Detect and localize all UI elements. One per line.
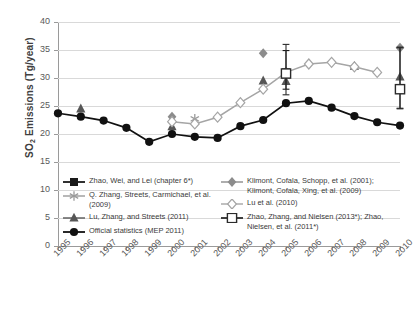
legend-item[interactable]: Q. Zhang, Streets, Carmichael, et al. (2… — [62, 190, 222, 209]
marker-legend — [228, 199, 237, 209]
legend-marker-open-diamond-icon — [220, 199, 244, 209]
marker-lu-2010 — [327, 57, 336, 67]
marker-legend — [70, 178, 78, 186]
legend-marker-star-x-icon — [62, 191, 86, 201]
marker-klimont — [259, 48, 268, 58]
series-line-official-statistics — [58, 101, 400, 142]
series-zhao-wei-lei — [282, 47, 404, 109]
marker-official-statistics — [236, 122, 244, 130]
legend-marker-filled-triangle-icon — [62, 213, 86, 223]
marker-zhao-zhang-nielsen — [395, 85, 404, 94]
legend-column-left: Zhao, Wei, and Lei (chapter 6*)Q. Zhang,… — [62, 176, 222, 240]
legend-item[interactable]: Lu, Zhang, and Streets (2011) — [62, 212, 222, 223]
marker-official-statistics — [350, 112, 358, 120]
marker-lu-2010 — [373, 67, 382, 77]
legend-item[interactable]: Lu et al. (2010) — [220, 198, 396, 209]
legend-label: Lu et al. (2010) — [247, 198, 396, 208]
legend-key — [62, 213, 86, 223]
marker-lu-2010 — [236, 98, 245, 108]
chart-root: SO2 Emissions (Tg/year) 4035302520151050… — [0, 0, 417, 320]
marker-official-statistics — [214, 134, 222, 142]
marker-official-statistics — [145, 138, 153, 146]
legend-marker-filled-diamond-icon — [220, 177, 244, 187]
legend-column-right: Klimont, Cofala, Schopp, et al. (2001); … — [220, 176, 396, 234]
marker-lu-2010 — [168, 117, 177, 127]
marker-official-statistics — [122, 124, 130, 132]
series-lu-2010 — [168, 57, 382, 129]
legend-marker-filled-circle-icon — [62, 227, 86, 237]
marker-official-statistics — [100, 116, 108, 124]
legend-key — [220, 213, 244, 223]
marker-official-statistics — [77, 113, 85, 121]
legend-label: Zhao, Zhang, and Nielsen (2013*); Zhao, … — [247, 212, 396, 231]
marker-official-statistics — [305, 97, 313, 105]
series-line-lu-2010 — [172, 62, 377, 124]
marker-legend — [227, 213, 236, 222]
marker-official-statistics — [282, 99, 290, 107]
marker-legend — [228, 177, 237, 187]
marker-zhao-zhang-nielsen — [281, 69, 290, 78]
legend-item[interactable]: Klimont, Cofala, Schopp, et al. (2001); … — [220, 176, 396, 195]
legend-label: Zhao, Wei, and Lei (chapter 6*) — [89, 176, 222, 186]
marker-lu-2010 — [213, 112, 222, 122]
legend-key — [220, 199, 244, 209]
marker-lu-2010 — [259, 84, 268, 94]
legend-key — [62, 177, 86, 187]
series-official-statistics — [54, 97, 404, 146]
legend-marker-open-square-icon — [220, 213, 244, 223]
legend-key — [220, 177, 244, 187]
legend-label: Klimont, Cofala, Schopp, et al. (2001); … — [247, 176, 396, 195]
legend-label: Q. Zhang, Streets, Carmichael, et al. (2… — [89, 190, 222, 209]
marker-lu-zhang-streets — [259, 76, 268, 85]
marker-official-statistics — [54, 109, 62, 117]
marker-official-statistics — [396, 122, 404, 130]
plot-area — [0, 0, 417, 320]
legend-marker-filled-square-icon — [62, 177, 86, 187]
chart-legend: Zhao, Wei, and Lei (chapter 6*)Q. Zhang,… — [62, 176, 394, 242]
marker-lu-2010 — [304, 59, 313, 69]
series-zhao-zhang-nielsen — [281, 44, 404, 108]
marker-official-statistics — [191, 133, 199, 141]
legend-label: Official statistics (MEP 2011) — [89, 226, 222, 236]
marker-official-statistics — [168, 130, 176, 138]
marker-official-statistics — [259, 116, 267, 124]
legend-key — [62, 191, 86, 201]
marker-legend — [70, 228, 78, 236]
marker-official-statistics — [328, 104, 336, 112]
legend-item[interactable]: Zhao, Wei, and Lei (chapter 6*) — [62, 176, 222, 187]
marker-lu-zhang-streets — [76, 104, 85, 113]
legend-item[interactable]: Official statistics (MEP 2011) — [62, 226, 222, 237]
marker-lu-2010 — [350, 62, 359, 72]
legend-key — [62, 227, 86, 237]
legend-label: Lu, Zhang, and Streets (2011) — [89, 212, 222, 222]
legend-item[interactable]: Zhao, Zhang, and Nielsen (2013*); Zhao, … — [220, 212, 396, 231]
marker-official-statistics — [373, 118, 381, 126]
